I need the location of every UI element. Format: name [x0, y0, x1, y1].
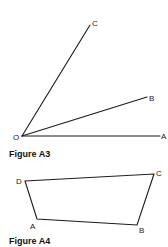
caption-figure-a4: Figure A4	[9, 236, 50, 246]
caption-figure-a3: Figure A3	[9, 149, 50, 159]
ray-oc	[22, 25, 90, 136]
label-d: D	[16, 177, 22, 186]
label-c: C	[92, 19, 98, 28]
figure-a3: O C B A Figure A3	[9, 19, 167, 159]
quadrilateral-abcd	[25, 174, 154, 225]
label-b: B	[149, 94, 154, 103]
label-b: B	[139, 226, 144, 235]
figure-canvas: O C B A Figure A3 D C B A Figure A4	[0, 0, 168, 247]
label-a: A	[30, 222, 36, 231]
label-a: A	[161, 132, 167, 141]
label-c: C	[156, 169, 162, 178]
ray-ob	[22, 97, 147, 136]
figure-a4: D C B A Figure A4	[9, 169, 162, 246]
label-o: O	[13, 133, 19, 142]
